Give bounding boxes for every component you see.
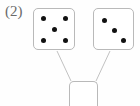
pip xyxy=(102,18,107,23)
left-die[interactable] xyxy=(33,8,75,50)
dice-diagram: (2) xyxy=(0,0,140,106)
pip xyxy=(121,38,126,43)
result-slot[interactable] xyxy=(69,81,98,106)
pip xyxy=(41,16,46,21)
pip xyxy=(52,27,57,32)
left-connector xyxy=(57,51,71,81)
right-connector xyxy=(96,51,110,81)
pip xyxy=(41,38,46,43)
right-die[interactable] xyxy=(93,8,134,50)
pip xyxy=(63,38,68,43)
pip xyxy=(63,16,68,21)
figure-label: (2) xyxy=(5,2,23,20)
pip xyxy=(112,28,117,33)
